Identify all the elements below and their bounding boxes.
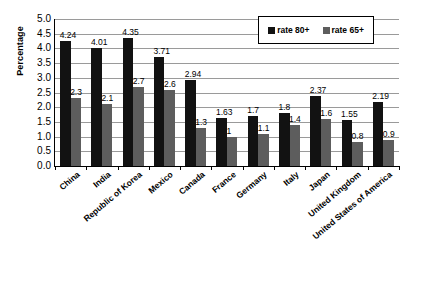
y-tick-label: 2.5 — [37, 88, 51, 98]
bar-value-label: 1.63 — [216, 108, 233, 117]
bar-s65 — [196, 128, 207, 166]
bar-s80 — [248, 116, 259, 166]
y-axis-title: Percentage — [15, 3, 25, 99]
legend-swatch-icon — [268, 27, 275, 34]
bar-value-label: 2.6 — [164, 80, 176, 89]
legend-item: rate 80+ — [268, 26, 309, 35]
bar-value-label: 2.19 — [372, 92, 389, 101]
x-axis-category-labels: ChinaIndiaRepublic of KoreaMexicoCanadaF… — [54, 170, 398, 290]
legend-label: rate 65+ — [332, 26, 364, 35]
bar-value-label: 1.4 — [289, 115, 301, 124]
y-tick-label: 5.0 — [37, 14, 51, 24]
bar-value-label: 2.7 — [133, 77, 145, 86]
legend-label: rate 80+ — [277, 26, 309, 35]
legend-item: rate 65+ — [323, 26, 364, 35]
bar-value-label: 1.7 — [247, 106, 259, 115]
bar-s80 — [185, 80, 196, 166]
bar-s65 — [352, 142, 363, 166]
bar-value-label: 1.6 — [320, 109, 332, 118]
bar-group: 4.012.1 — [86, 19, 117, 166]
bar-s65 — [133, 87, 144, 166]
bar-group: 4.242.3 — [55, 19, 86, 166]
bar-s65 — [258, 134, 269, 166]
y-tick-label: 4.5 — [37, 29, 51, 39]
bar-s65 — [321, 119, 332, 166]
bar-value-label: 0.9 — [383, 130, 395, 139]
y-tick-label: 0.5 — [37, 146, 51, 156]
bar-s80 — [373, 102, 384, 166]
y-tick-label: 1.5 — [37, 117, 51, 127]
y-tick-label: 1.0 — [37, 132, 51, 142]
y-tick-label: 4.0 — [37, 43, 51, 53]
bar-value-label: 4.35 — [122, 28, 139, 37]
bar-group: 4.352.7 — [118, 19, 149, 166]
bar-value-label: 1.8 — [279, 103, 291, 112]
bar-value-label: 1.3 — [195, 118, 207, 127]
bar-value-label: 1.1 — [258, 124, 270, 133]
bar-s80 — [279, 113, 290, 166]
y-tick-label: 3.5 — [37, 58, 51, 68]
bar-group: 1.631 — [211, 19, 242, 166]
bar-group: 2.941.3 — [180, 19, 211, 166]
bar-value-label: 1.55 — [341, 110, 358, 119]
bar-value-label: 0.8 — [352, 132, 364, 141]
bar-value-label: 2.94 — [185, 70, 202, 79]
bar-s80 — [60, 41, 71, 166]
x-tick — [399, 166, 400, 170]
bar-s65 — [383, 140, 394, 166]
bar-value-label: 3.71 — [153, 47, 170, 56]
bar-chart: Percentage 5.04.54.03.53.02.52.01.51.00.… — [0, 0, 425, 296]
bar-s80 — [91, 48, 102, 166]
bar-value-label: 1 — [226, 127, 231, 136]
y-tick-label: 0.0 — [37, 161, 51, 171]
bar-value-label: 2.37 — [310, 86, 327, 95]
bar-s65 — [102, 104, 113, 166]
chart-legend: rate 80+rate 65+ — [258, 16, 374, 44]
bar-value-label: 2.1 — [101, 94, 113, 103]
legend-swatch-icon — [323, 27, 330, 34]
bar-value-label: 4.01 — [91, 38, 108, 47]
bar-s65 — [164, 90, 175, 166]
bar-s65 — [71, 98, 82, 166]
bar-value-label: 2.3 — [70, 88, 82, 97]
bar-group: 3.712.6 — [149, 19, 180, 166]
y-tick-label: 3.0 — [37, 73, 51, 83]
bar-s80 — [216, 118, 227, 166]
bar-s65 — [290, 125, 301, 166]
bar-s80 — [310, 96, 321, 166]
bar-s80 — [154, 57, 165, 166]
bar-value-label: 4.24 — [60, 31, 77, 40]
bar-s80 — [342, 120, 353, 166]
y-tick-label: 2.0 — [37, 102, 51, 112]
bar-s65 — [227, 137, 238, 166]
bar-s80 — [123, 38, 134, 166]
